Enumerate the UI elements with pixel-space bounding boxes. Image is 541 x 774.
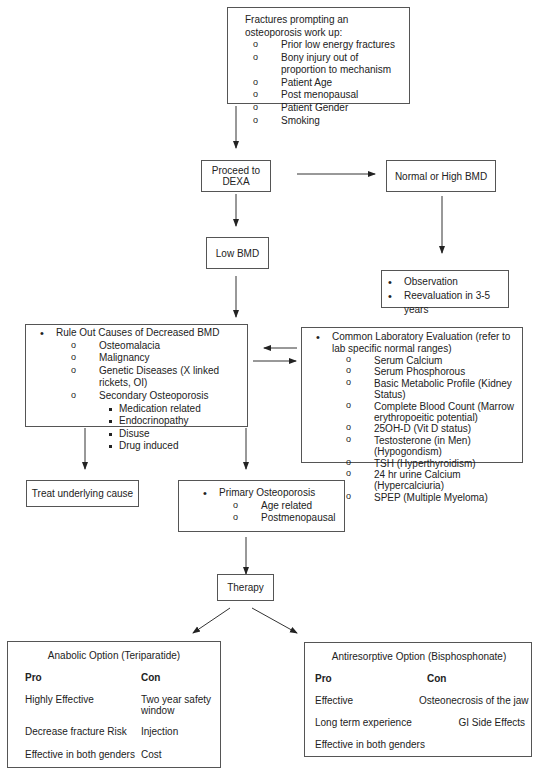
dexa-label: Proceed to DEXA	[202, 165, 270, 187]
anabolic-con-header: Con	[141, 672, 231, 694]
fracture-item: Patient Age	[253, 77, 405, 90]
normal-bmd-label: Normal or High BMD	[395, 171, 487, 182]
rule-out-title: Rule Out Causes of Decreased BMD Osteoma…	[34, 327, 247, 453]
secondary-cause: Drug induced	[107, 440, 247, 453]
rule-out-title-text: Rule Out Causes of Decreased BMD	[56, 327, 219, 338]
fracture-item: Smoking	[253, 115, 405, 128]
lab-evaluation-box: Common Laboratory Evaluation (refer to l…	[301, 327, 523, 463]
fractures-title: Fractures prompting an osteoporosis work…	[245, 13, 405, 39]
anabolic-pro: Decrease fracture Risk	[25, 726, 141, 749]
antiresorptive-option-box: Antiresorptive Option (Bisphosphonate) P…	[304, 642, 532, 757]
lab-item: Serum Phosphorous	[346, 366, 518, 377]
anabolic-title: Anabolic Option (Teriparatide)	[8, 650, 220, 666]
primary-osteoporosis-box: Primary Osteoporosis Age related Postmen…	[178, 480, 345, 532]
anabolic-con: Two year safety window	[141, 694, 231, 726]
lab-item: 24 hr urine Calcium (Hypercalciuria)	[346, 469, 518, 492]
observation-box: Observation Reevaluation in 3-5 years	[381, 270, 509, 308]
lab-title: Common Laboratory Evaluation (refer to l…	[310, 331, 518, 503]
lab-item: Serum Calcium	[346, 355, 518, 366]
observation-item: Observation	[382, 275, 508, 289]
cause-item-secondary: Secondary Osteoporosis Medication relate…	[71, 390, 247, 453]
cause-item: Genetic Diseases (X linked rickets, OI)	[71, 365, 247, 390]
antiresorptive-pro: Effective	[315, 695, 427, 717]
secondary-cause: Endocrinopathy	[107, 415, 247, 428]
lab-item: 25OH-D (Vit D status)	[346, 423, 518, 434]
low-bmd-label: Low BMD	[216, 248, 259, 259]
lab-item: SPEP (Multiple Myeloma)	[346, 492, 518, 503]
therapy-label: Therapy	[227, 582, 264, 593]
primary-item: Postmenopausal	[233, 512, 344, 525]
cause-item: Osteomalacia	[71, 340, 247, 353]
fractures-workup-box: Fractures prompting an osteoporosis work…	[227, 7, 410, 104]
anabolic-pro: Effective in both genders	[25, 749, 141, 772]
primary-item: Age related	[233, 500, 344, 513]
secondary-cause: Disuse	[107, 428, 247, 441]
anabolic-pro-header: Pro	[25, 672, 141, 694]
anabolic-con: Injection	[141, 726, 231, 749]
antiresorptive-con: GI Side Effects	[427, 717, 525, 739]
antiresorptive-con-header: Con	[427, 673, 525, 695]
anabolic-pro: Highly Effective	[25, 694, 141, 726]
anabolic-con: Cost	[141, 749, 231, 772]
secondary-cause: Medication related	[107, 403, 247, 416]
proceed-to-dexa-box: Proceed to DEXA	[201, 160, 271, 192]
treat-label: Treat underlying cause	[32, 488, 133, 499]
antiresorptive-pro-header: Pro	[315, 673, 427, 695]
lab-item: Testosterone (in Men) (Hypogondism)	[346, 435, 518, 458]
primary-title: Primary Osteoporosis Age related Postmen…	[197, 487, 344, 525]
fracture-item: Prior low energy fractures	[253, 39, 405, 52]
antiresorptive-pro: Effective in both genders	[315, 739, 427, 761]
anabolic-option-box: Anabolic Option (Teriparatide) Pro Con H…	[7, 641, 221, 768]
fracture-item: Bony injury out of proportion to mechani…	[253, 52, 405, 77]
lab-title-text: Common Laboratory Evaluation (refer to l…	[332, 331, 518, 355]
therapy-box: Therapy	[217, 574, 274, 601]
lab-item: TSH (Hyperthyroidism)	[346, 458, 518, 469]
treat-underlying-cause-box: Treat underlying cause	[26, 480, 139, 507]
antiresorptive-title: Antiresorptive Option (Bisphosphonate)	[315, 651, 523, 667]
fracture-item: Patient Gender	[253, 102, 405, 115]
antiresorptive-con: Osteonecrosis of the jaw	[419, 695, 525, 717]
observation-item: Reevaluation in 3-5 years	[382, 289, 508, 317]
rule-out-causes-box: Rule Out Causes of Decreased BMD Osteoma…	[25, 324, 248, 427]
antiresorptive-con	[427, 739, 525, 761]
secondary-osteoporosis-text: Secondary Osteoporosis	[99, 390, 209, 401]
primary-title-text: Primary Osteoporosis	[219, 487, 315, 498]
cause-item: Malignancy	[71, 352, 247, 365]
antiresorptive-pro: Long term experience	[315, 717, 427, 739]
low-bmd-box: Low BMD	[206, 237, 269, 269]
fracture-item: Post menopausal	[253, 89, 405, 102]
normal-high-bmd-box: Normal or High BMD	[386, 160, 496, 192]
lab-item: Basic Metabolic Profile (Kidney Status)	[346, 378, 518, 401]
lab-item: Complete Blood Count (Marrow erythropoei…	[346, 401, 518, 424]
